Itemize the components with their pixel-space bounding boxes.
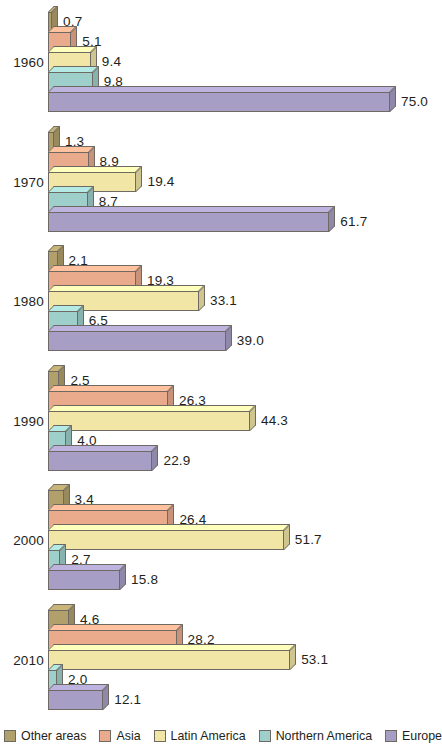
legend-label: Latin America	[171, 729, 246, 743]
bar-top-face	[48, 325, 232, 331]
legend-label: Asia	[116, 729, 140, 743]
bar-europe	[48, 206, 335, 226]
bar-top-face	[48, 405, 256, 411]
bar-top-face	[48, 445, 158, 451]
bar-europe	[48, 325, 232, 345]
bar-northernamerica	[48, 305, 84, 325]
bar-top-face	[48, 86, 396, 92]
bar-value-label: 28.2	[188, 632, 215, 647]
bar-northernamerica	[48, 66, 99, 86]
bar-asia	[48, 265, 142, 285]
legend-label: Northern America	[276, 729, 372, 743]
bar-value-label: 2.7	[71, 552, 90, 567]
bar-front-face	[48, 92, 390, 112]
bar-otherareas	[48, 484, 70, 504]
bar-europe	[48, 684, 109, 704]
legend-label: Other areas	[21, 729, 86, 743]
legend-color-swatch	[259, 730, 271, 742]
bar-value-label: 8.9	[100, 154, 119, 169]
bar-top-face	[48, 644, 296, 650]
bar-asia	[48, 26, 77, 46]
year-axis-label: 1960	[0, 55, 44, 70]
legend-item: Latin America	[154, 729, 246, 743]
bar-asia	[48, 385, 174, 405]
bar-value-label: 22.9	[163, 453, 190, 468]
bar-front-face	[48, 331, 226, 351]
bar-top-face	[48, 524, 290, 530]
horizontal-bar-chart: 196075.09.89.45.10.7197061.78.719.48.91.…	[0, 0, 420, 714]
bar-value-label: 12.1	[114, 692, 141, 707]
bar-end-cap	[103, 684, 109, 710]
bar-latinamerica	[48, 524, 290, 544]
bar-value-label: 15.8	[131, 572, 158, 587]
bar-top-face	[48, 624, 183, 630]
legend-color-swatch	[385, 730, 397, 742]
bar-front-face	[48, 690, 103, 710]
bar-value-label: 2.0	[68, 672, 87, 687]
bar-end-cap	[136, 166, 142, 192]
bar-asia	[48, 624, 183, 644]
bar-value-label: 19.4	[147, 174, 174, 189]
bar-latinamerica	[48, 46, 97, 66]
year-group: 200015.82.751.726.43.4	[0, 484, 420, 590]
year-group: 197061.78.719.48.91.3	[0, 126, 420, 232]
bar-northernamerica	[48, 425, 72, 445]
year-axis-label: 2000	[0, 533, 44, 548]
legend-color-swatch	[4, 730, 16, 742]
bar-northernamerica	[48, 664, 63, 684]
bar-value-label: 0.7	[63, 14, 82, 29]
bar-top-face	[48, 504, 174, 510]
bar-value-label: 19.3	[147, 273, 174, 288]
year-axis-label: 1970	[0, 175, 44, 190]
year-group: 199022.94.044.326.32.5	[0, 365, 420, 471]
legend-label: Europe	[402, 729, 442, 743]
bar-value-label: 8.7	[99, 194, 118, 209]
bar-front-face	[48, 530, 284, 550]
legend-color-swatch	[154, 730, 166, 742]
bar-front-face	[48, 570, 120, 590]
bar-front-face	[48, 411, 250, 431]
year-group: 198039.06.533.119.32.1	[0, 245, 420, 351]
legend-item: Asia	[99, 729, 140, 743]
bar-value-label: 44.3	[261, 413, 288, 428]
year-axis-label: 2010	[0, 653, 44, 668]
legend-color-swatch	[99, 730, 111, 742]
bar-value-label: 1.3	[65, 134, 84, 149]
bar-end-cap	[199, 285, 205, 311]
bar-otherareas	[48, 6, 58, 26]
bar-latinamerica	[48, 405, 256, 425]
bar-top-face	[48, 186, 94, 192]
bar-otherareas	[48, 604, 75, 624]
bar-end-cap	[284, 524, 290, 550]
bar-top-face	[48, 385, 174, 391]
bar-end-cap	[250, 405, 256, 431]
bar-value-label: 26.3	[179, 393, 206, 408]
bar-latinamerica	[48, 644, 296, 664]
bar-value-label: 4.6	[80, 612, 99, 627]
bar-front-face	[48, 451, 152, 471]
bar-top-face	[48, 285, 205, 291]
bar-northernamerica	[48, 544, 66, 564]
bar-northernamerica	[48, 186, 94, 206]
bar-value-label: 9.8	[104, 74, 123, 89]
bar-value-label: 4.0	[77, 433, 96, 448]
bar-value-label: 2.1	[69, 253, 88, 268]
year-group: 201012.12.053.128.24.6	[0, 604, 420, 710]
bar-end-cap	[226, 325, 232, 351]
legend-item: Europe	[385, 729, 442, 743]
bar-top-face	[48, 265, 142, 271]
bar-value-label: 53.1	[301, 652, 328, 667]
bar-front-face	[48, 650, 290, 670]
year-group: 196075.09.89.45.10.7	[0, 6, 420, 112]
bar-top-face	[48, 66, 99, 72]
bar-value-label: 39.0	[237, 333, 264, 348]
bar-value-label: 6.5	[89, 313, 108, 328]
bar-asia	[48, 504, 174, 524]
bar-otherareas	[48, 126, 60, 146]
bar-value-label: 33.1	[210, 293, 237, 308]
bar-europe	[48, 564, 126, 584]
bar-top-face	[48, 166, 142, 172]
bar-latinamerica	[48, 285, 205, 305]
bar-end-cap	[390, 86, 396, 112]
bar-front-face	[48, 212, 329, 232]
